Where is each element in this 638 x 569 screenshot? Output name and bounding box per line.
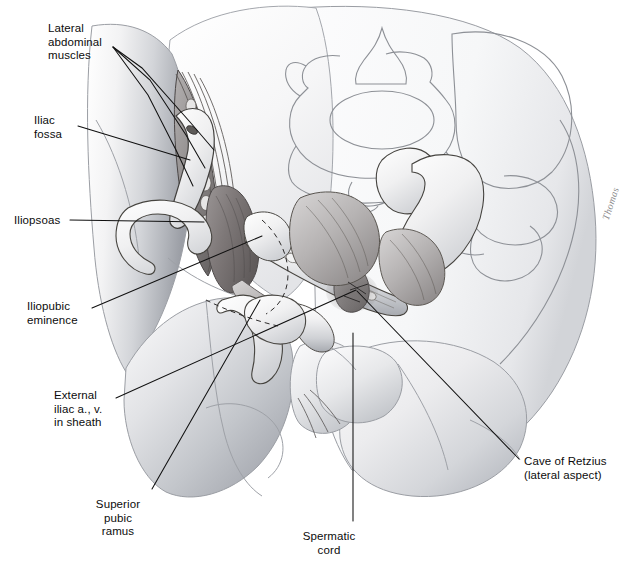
label-iliopubic-eminence: Iliopubic eminence	[27, 300, 78, 327]
label-cave-of-retzius: Cave of Retzius (lateral aspect)	[524, 455, 607, 482]
label-iliac-fossa: Iliac fossa	[34, 114, 62, 141]
label-external-iliac-vessels: External iliac a., v. in sheath	[54, 389, 102, 430]
penis-shaft	[316, 346, 402, 423]
illustration-canvas	[0, 0, 638, 569]
label-iliopsoas: Iliopsoas	[14, 214, 60, 228]
anatomical-figure: Lateral abdominal muscles Iliac fossa Il…	[0, 0, 638, 569]
prevesical-mass	[290, 192, 380, 286]
label-spermatic-cord: Spermatic cord	[279, 530, 379, 557]
label-superior-pubic-ramus: Superior pubic ramus	[68, 498, 168, 539]
label-lateral-abdominal-muscles: Lateral abdominal muscles	[48, 22, 102, 63]
